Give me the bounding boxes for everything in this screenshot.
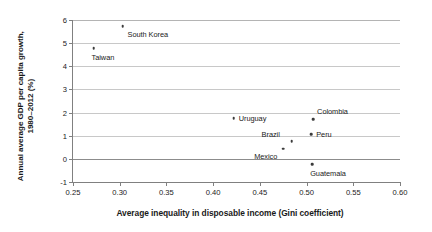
y-tick-6: [69, 20, 73, 21]
point-label-uruguay: Uruguay: [239, 114, 267, 123]
point-label-guatemala: Guatemala: [310, 169, 346, 178]
y-tick-1: [69, 136, 73, 137]
point-label-peru: Peru: [316, 130, 331, 139]
point-label-brazil: Brazil: [262, 130, 280, 139]
y-tick-3: [69, 89, 73, 90]
gridline-y-5: [73, 43, 400, 44]
x-tick-label-0.25: 0.25: [66, 188, 81, 197]
y-tick-2: [69, 113, 73, 114]
x-axis-title: Average inequality in disposable income …: [40, 208, 420, 218]
data-point-taiwan: [92, 47, 95, 50]
data-point-guatemala: [311, 163, 314, 166]
gridline-y-3: [73, 89, 400, 90]
y-tick-0: [69, 159, 73, 160]
point-label-taiwan: Taiwan: [92, 53, 115, 62]
x-tick-label-0.50: 0.50: [299, 188, 314, 197]
x-tick-label-0.35: 0.35: [159, 188, 174, 197]
y-tick-label-5: 5: [63, 39, 67, 48]
data-point-brazil: [290, 140, 293, 143]
x-tick-label-0.55: 0.55: [346, 188, 361, 197]
point-label-mexico: Mexico: [254, 152, 277, 161]
gridline-y-0: [73, 159, 400, 160]
x-tick-0.50: [307, 182, 308, 186]
y-axis-title-line-2: 1980–2012 (%): [26, 11, 36, 201]
y-tick-label-1: 1: [63, 131, 67, 140]
y-axis-title: Annual average GDP per capita growth, 19…: [16, 11, 36, 201]
y-tick-label-0: 0: [63, 154, 67, 163]
y-tick-label-4: 4: [63, 62, 67, 71]
scatter-chart-figure: Annual average GDP per capita growth, 19…: [0, 0, 432, 232]
data-point-peru: [310, 133, 313, 136]
data-point-mexico: [282, 148, 285, 151]
x-tick-0.30: [120, 182, 121, 186]
y-tick-label--1: -1: [60, 178, 67, 187]
y-axis-title-line-1: Annual average GDP per capita growth,: [16, 11, 26, 201]
gridline-y-6: [73, 20, 400, 21]
x-axis-line: [73, 182, 400, 183]
gridline-y-4: [73, 66, 400, 67]
x-tick-0.35: [166, 182, 167, 186]
point-label-colombia: Colombia: [317, 107, 348, 116]
data-point-colombia: [312, 118, 315, 121]
x-tick-0.45: [260, 182, 261, 186]
y-tick-label-6: 6: [63, 16, 67, 25]
data-point-uruguay: [232, 117, 235, 120]
plot-area: -101234560.250.300.350.400.450.500.550.6…: [73, 20, 400, 182]
y-tick-5: [69, 43, 73, 44]
x-tick-label-0.45: 0.45: [252, 188, 267, 197]
point-label-south-korea: South Korea: [128, 30, 169, 39]
x-tick-0.60: [400, 182, 401, 186]
x-tick-label-0.40: 0.40: [206, 188, 221, 197]
data-point-south-korea: [121, 25, 124, 28]
gridline-y-2: [73, 113, 400, 114]
gridline-y-1: [73, 136, 400, 137]
y-tick-4: [69, 66, 73, 67]
y-tick-label-2: 2: [63, 108, 67, 117]
y-tick-label-3: 3: [63, 85, 67, 94]
x-tick-label-0.60: 0.60: [393, 188, 408, 197]
x-tick-0.40: [213, 182, 214, 186]
x-tick-0.25: [73, 182, 74, 186]
x-tick-label-0.30: 0.30: [112, 188, 127, 197]
x-tick-0.55: [353, 182, 354, 186]
